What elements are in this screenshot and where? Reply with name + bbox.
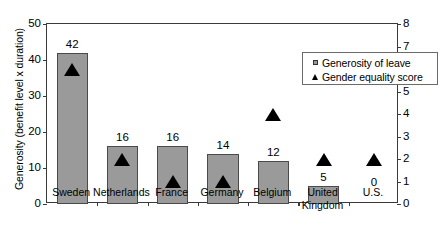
left-tick [43,168,47,169]
left-tick-label: 20 [28,126,41,138]
plot-area: 01020304050 012345678 421616141250 Gener… [46,23,398,203]
right-tick-label: 2 [403,153,409,165]
left-tick-label: 0 [35,198,41,210]
right-tick-label: 1 [403,176,409,188]
bar-value-label: 12 [267,147,280,159]
triangle-marker [64,63,80,76]
left-tick [43,132,47,133]
left-tick-label: 40 [28,54,41,66]
bar-value-label: 42 [66,39,79,51]
category-tick [349,202,350,206]
category-tick [248,202,249,206]
right-tick [397,159,401,160]
left-tick-label: 50 [28,18,41,30]
bar-value-label: 5 [320,172,326,184]
legend-label-generosity: Generosity of leave [322,57,411,69]
chart-figure: Generosity (benefit level x duration) Ge… [0,0,441,240]
right-tick [397,92,401,93]
left-tick [43,60,47,61]
category-label: Germany [200,186,243,199]
right-tick-label: 3 [403,131,409,143]
triangle-marker [366,153,382,166]
left-tick [43,24,47,25]
left-tick [43,96,47,97]
right-tick [397,114,401,115]
category-label: U.S. [363,186,383,199]
right-tick [397,24,401,25]
triangle-marker-icon [308,74,322,80]
bar-value-label: 16 [166,132,179,144]
right-tick-label: 0 [403,198,409,210]
left-tick-label: 10 [28,162,41,174]
chart-legend: Generosity of leave Gender equality scor… [302,52,438,85]
right-tick [397,47,401,48]
square-marker-icon [308,60,322,65]
category-label: Belgium [253,186,291,199]
triangle-marker [265,108,281,121]
left-axis-title: Generosity (benefit level x duration) [13,14,25,204]
left-tick-label: 30 [28,90,41,102]
legend-label-gender-equality: Gender equality score [322,71,423,83]
bar-value-label: 16 [116,132,129,144]
right-tick-label: 5 [403,86,409,98]
right-tick-label: 4 [403,108,409,120]
category-label: Netherlands [93,186,150,199]
right-tick-label: 7 [403,41,409,53]
legend-item-gender-equality: Gender equality score [308,70,432,83]
category-label: Sweden [52,186,90,199]
category-label: United Kingdom [302,186,343,211]
category-tick [198,202,199,206]
triangle-marker [316,153,332,166]
right-tick [397,137,401,138]
category-tick [148,202,149,206]
category-label: France [155,186,188,199]
right-tick-label: 8 [403,18,409,30]
category-tick [298,202,299,206]
triangle-marker [114,153,130,166]
right-tick [397,182,401,183]
right-tick [397,204,401,205]
left-tick [43,204,47,205]
legend-item-generosity: Generosity of leave [308,56,432,69]
category-tick [97,202,98,206]
bar-value-label: 14 [217,140,230,152]
